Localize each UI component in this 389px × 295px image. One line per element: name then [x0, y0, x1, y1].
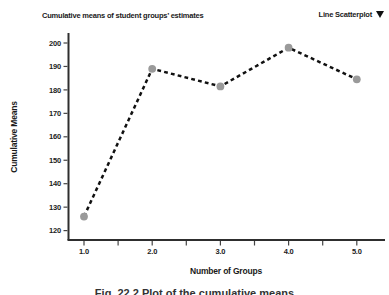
- line-scatterplot-canvas: 1201301401501601701801902001.02.03.04.05…: [0, 0, 389, 262]
- data-point: [80, 213, 88, 221]
- x-tick-label: 5.0: [352, 247, 362, 256]
- data-point: [353, 75, 361, 83]
- x-axis-label: Number of Groups: [190, 266, 262, 276]
- x-tick-label: 4.0: [284, 247, 294, 256]
- y-tick-label: 170: [49, 109, 61, 118]
- data-point: [148, 65, 156, 73]
- figure-caption: Fig. 22.2 Plot of the cumulative means: [0, 287, 389, 295]
- y-tick-label: 160: [49, 132, 61, 141]
- y-tick-label: 120: [49, 226, 61, 235]
- x-tick-label: 3.0: [215, 247, 225, 256]
- data-point: [285, 44, 293, 52]
- y-tick-label: 180: [49, 86, 61, 95]
- y-tick-label: 140: [49, 179, 61, 188]
- x-tick-label: 1.0: [79, 247, 89, 256]
- x-tick-label: 2.0: [147, 247, 157, 256]
- y-axis-label: Cumulative Means: [9, 101, 19, 172]
- data-point: [217, 82, 225, 90]
- trend-line: [84, 48, 357, 217]
- y-tick-label: 150: [49, 156, 61, 165]
- y-tick-label: 200: [49, 39, 61, 48]
- chart-panel: Cumulative means of student groups’ esti…: [0, 0, 389, 295]
- y-tick-label: 130: [49, 203, 61, 212]
- y-tick-label: 190: [49, 62, 61, 71]
